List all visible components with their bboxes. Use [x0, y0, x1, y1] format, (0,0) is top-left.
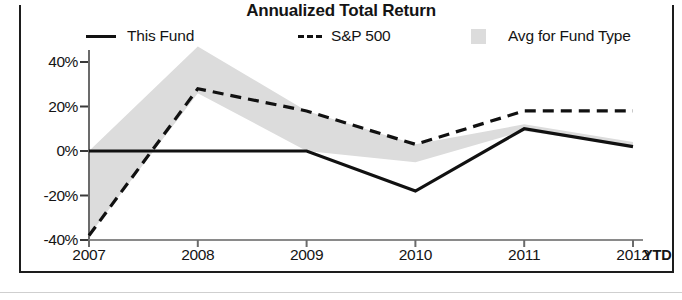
x-tick-label: 2010 — [399, 246, 432, 264]
solid-line-icon — [86, 35, 116, 38]
x-axis-suffix-label: YTD — [643, 247, 671, 263]
x-tick-label: 2011 — [508, 246, 540, 264]
x-tick-label: 2008 — [181, 246, 214, 264]
y-tick-label: 40% — [22, 53, 78, 71]
legend-item-sp500: S&P 500 — [298, 24, 391, 48]
legend-label-this-fund: This Fund — [127, 27, 194, 45]
x-tick-label: 2007 — [72, 246, 105, 264]
legend-item-this-fund: This Fund — [86, 24, 194, 48]
chart-title: Annualized Total Return — [0, 1, 682, 21]
page-bottom-rule — [0, 292, 682, 293]
y-tick-label: 0% — [22, 142, 78, 160]
legend-item-avg-fund-type: Avg for Fund Type — [471, 24, 631, 48]
legend-label-sp500: S&P 500 — [331, 27, 391, 45]
x-axis-tick-labels: 200720082009201020112012 — [0, 246, 682, 270]
y-tick-label: -20% — [22, 187, 78, 205]
x-tick-label: 2009 — [290, 246, 323, 264]
y-tick-label: 20% — [22, 98, 78, 116]
band-swatch-icon — [471, 29, 486, 44]
legend-label-avg-fund-type: Avg for Fund Type — [508, 27, 631, 45]
chart-legend: This Fund S&P 500 Avg for Fund Type — [28, 24, 668, 48]
dashed-line-icon — [298, 35, 322, 38]
